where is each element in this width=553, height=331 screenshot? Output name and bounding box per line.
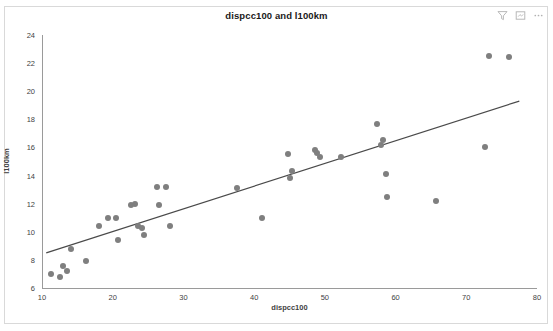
data-point[interactable]	[83, 258, 89, 264]
data-point[interactable]	[289, 168, 295, 174]
data-point[interactable]	[154, 184, 160, 190]
x-tick-30: 30	[179, 288, 187, 302]
data-point[interactable]	[338, 154, 344, 160]
y-tick-12: 12	[27, 199, 42, 208]
x-axis-title: dispcc100	[42, 303, 537, 312]
data-point[interactable]	[234, 185, 240, 191]
trendline-segment	[46, 101, 519, 253]
x-tick-80: 80	[533, 288, 541, 302]
data-point[interactable]	[57, 274, 63, 280]
data-point[interactable]	[380, 137, 386, 143]
y-axis-line	[42, 35, 43, 288]
data-point[interactable]	[317, 154, 323, 160]
data-point[interactable]	[506, 54, 512, 60]
data-point[interactable]	[285, 151, 291, 157]
data-point[interactable]	[287, 175, 293, 181]
more-options-icon[interactable]	[533, 10, 544, 21]
focus-mode-icon[interactable]	[515, 10, 526, 21]
x-tick-20: 20	[109, 288, 117, 302]
data-point[interactable]	[113, 215, 119, 221]
y-tick-16: 16	[27, 143, 42, 152]
data-point[interactable]	[163, 184, 169, 190]
trendline	[42, 35, 537, 288]
data-point[interactable]	[132, 201, 138, 207]
data-point[interactable]	[141, 232, 147, 238]
y-tick-18: 18	[27, 115, 42, 124]
plot-area[interactable]: 681012141618202224 1020304050607080 disp…	[42, 35, 537, 288]
filter-icon[interactable]	[497, 10, 508, 21]
data-point[interactable]	[96, 223, 102, 229]
data-point[interactable]	[139, 225, 145, 231]
data-point[interactable]	[384, 194, 390, 200]
header-icon-group	[497, 9, 544, 21]
x-tick-60: 60	[391, 288, 399, 302]
data-point[interactable]	[156, 202, 162, 208]
data-point[interactable]	[64, 268, 70, 274]
data-point[interactable]	[48, 271, 54, 277]
y-tick-22: 22	[27, 59, 42, 68]
data-point[interactable]	[383, 171, 389, 177]
y-tick-20: 20	[27, 87, 42, 96]
y-tick-14: 14	[27, 171, 42, 180]
y-tick-8: 8	[31, 255, 42, 264]
data-point[interactable]	[486, 53, 492, 59]
data-point[interactable]	[115, 237, 121, 243]
data-point[interactable]	[482, 144, 488, 150]
page-title: dispcc100 and l100km	[0, 10, 553, 21]
data-point[interactable]	[374, 121, 380, 127]
y-axis-title: l100km	[2, 148, 11, 173]
data-point[interactable]	[167, 223, 173, 229]
data-point[interactable]	[105, 215, 111, 221]
y-tick-10: 10	[27, 227, 42, 236]
x-tick-70: 70	[462, 288, 470, 302]
data-point[interactable]	[259, 215, 265, 221]
x-tick-50: 50	[321, 288, 329, 302]
data-point[interactable]	[68, 246, 74, 252]
y-tick-24: 24	[27, 31, 42, 40]
x-tick-40: 40	[250, 288, 258, 302]
x-tick-10: 10	[38, 288, 46, 302]
data-point[interactable]	[433, 198, 439, 204]
visual-container: dispcc100 and l100km 6810121416182022	[0, 0, 553, 331]
